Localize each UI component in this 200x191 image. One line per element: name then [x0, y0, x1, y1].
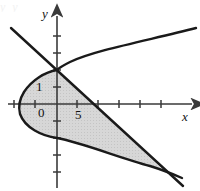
tick-label-5: 5: [75, 108, 82, 121]
figure-canvas: [0, 0, 200, 191]
x-axis-label: x: [182, 110, 188, 123]
tick-label-0: 0: [38, 106, 45, 119]
tick-label-1: 1: [36, 80, 43, 93]
axes-group: [8, 16, 192, 188]
y-axis-label: y: [42, 7, 48, 20]
math-figure: y y y x: [0, 0, 200, 191]
